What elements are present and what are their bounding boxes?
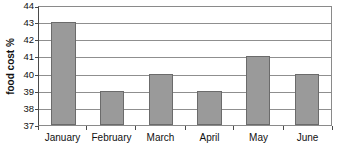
plot-area xyxy=(38,6,332,126)
x-axis-tick-mark xyxy=(283,126,284,130)
bar-slot xyxy=(282,7,331,125)
x-axis-tick-marks xyxy=(38,126,332,130)
x-axis-tick-label: May xyxy=(234,131,283,147)
x-axis-tick-mark xyxy=(38,126,39,130)
y-axis-tick-label: 40 xyxy=(23,70,34,80)
bar-chart-figure: food cost % 4443424140393837 JanuaryFebr… xyxy=(0,0,339,164)
y-axis-tick-label: 39 xyxy=(23,87,34,97)
y-axis-tick-label: 38 xyxy=(23,104,34,114)
bar-slot xyxy=(39,7,88,125)
bar-slot xyxy=(185,7,234,125)
x-axis-tick-label: February xyxy=(87,131,136,147)
x-axis-tick-label: March xyxy=(136,131,185,147)
bar xyxy=(295,74,319,125)
bar xyxy=(100,91,124,125)
x-axis-tick-label: June xyxy=(283,131,332,147)
x-axis-tick-mark xyxy=(135,126,136,130)
bar xyxy=(51,22,75,125)
x-axis-tick-label: April xyxy=(185,131,234,147)
y-axis-tick-label: 44 xyxy=(23,1,34,11)
bar-slot xyxy=(88,7,137,125)
y-axis-tick-label: 42 xyxy=(23,36,34,46)
x-axis-tick-mark xyxy=(332,126,333,130)
bar-slot xyxy=(136,7,185,125)
y-axis-title-text: food cost % xyxy=(5,38,16,95)
y-axis-tick-label: 41 xyxy=(23,53,34,63)
x-axis-tick-label: January xyxy=(38,131,87,147)
x-axis-tick-mark xyxy=(233,126,234,130)
bar xyxy=(149,74,173,125)
bar xyxy=(246,56,270,125)
y-axis-tick-label: 37 xyxy=(23,121,34,131)
bar xyxy=(197,91,221,125)
x-axis-tick-mark xyxy=(185,126,186,130)
bar-slot xyxy=(234,7,283,125)
y-axis-tick-label: 43 xyxy=(23,18,34,28)
x-axis-tick-mark xyxy=(86,126,87,130)
y-axis-tick-labels: 4443424140393837 xyxy=(18,6,34,126)
y-axis-title: food cost % xyxy=(0,0,20,132)
x-axis-tick-labels: JanuaryFebruaryMarchAprilMayJune xyxy=(38,131,332,147)
bars-container xyxy=(39,7,331,125)
